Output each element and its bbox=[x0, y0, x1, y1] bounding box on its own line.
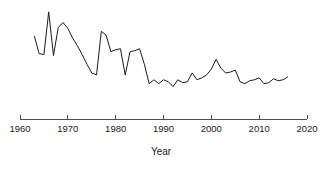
x-tick-label-1990: 1990 bbox=[153, 123, 174, 134]
chart-canvas: 1960197019801990200020102020 Year bbox=[0, 0, 322, 174]
x-axis-title: Year bbox=[151, 146, 172, 157]
x-axis-ticks bbox=[20, 115, 307, 119]
x-tick-label-1970: 1970 bbox=[57, 123, 78, 134]
x-tick-label-1960: 1960 bbox=[9, 123, 30, 134]
x-tick-label-1980: 1980 bbox=[105, 123, 126, 134]
x-tick-label-2020: 2020 bbox=[296, 123, 317, 134]
data-line-value bbox=[34, 12, 288, 87]
x-tick-label-2010: 2010 bbox=[249, 123, 270, 134]
line-chart: 1960197019801990200020102020 Year bbox=[0, 0, 322, 174]
data-series-layer bbox=[34, 12, 288, 87]
x-axis: 1960197019801990200020102020 bbox=[9, 115, 317, 134]
x-tick-label-2000: 2000 bbox=[201, 123, 222, 134]
x-axis-tick-labels: 1960197019801990200020102020 bbox=[9, 123, 317, 134]
